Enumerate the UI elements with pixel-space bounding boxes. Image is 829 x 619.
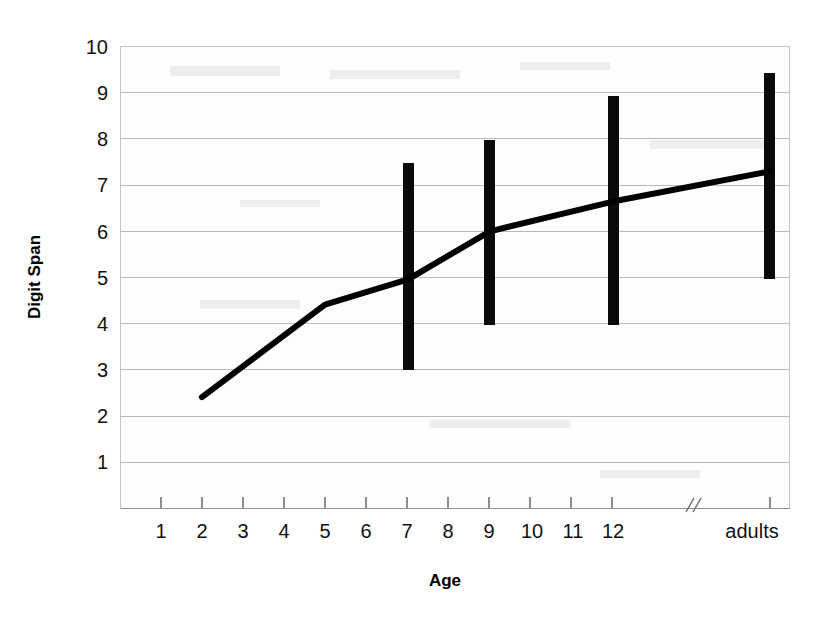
chart-canvas: 10 9 8 7 6 5 4 3 2 1 Digit Span [0, 0, 829, 619]
x-tick-label: 8 [442, 520, 453, 542]
digit-span-chart: 10 9 8 7 6 5 4 3 2 1 Digit Span [0, 0, 829, 619]
error-bar-age-7 [403, 163, 414, 370]
x-tick-label: 2 [196, 520, 207, 542]
y-axis-tick-labels: 10 9 8 7 6 5 4 3 2 1 [86, 36, 108, 473]
y-tick-label: 2 [97, 405, 108, 427]
y-tick-label: 8 [97, 128, 108, 150]
x-tick-label: 10 [521, 520, 543, 542]
y-axis-title: Digit Span [25, 235, 44, 319]
y-tick-label: 7 [97, 174, 108, 196]
x-tick-label: adults [725, 520, 778, 542]
x-tick-label: 6 [360, 520, 371, 542]
x-tick-label: 9 [483, 520, 494, 542]
x-tick-label: 4 [278, 520, 289, 542]
y-tick-label: 3 [97, 359, 108, 381]
x-axis-title: Age [429, 571, 461, 590]
x-tick-label: 11 [563, 520, 584, 542]
error-bar-adults [764, 73, 775, 279]
x-axis-tick-labels: 1 2 3 4 5 6 7 8 9 10 11 12 adults [155, 520, 778, 542]
x-tick-label: 5 [319, 520, 330, 542]
x-tick-label: 7 [401, 520, 412, 542]
error-bar-age-12 [608, 96, 619, 325]
x-tick-label: 12 [602, 520, 624, 542]
y-tick-label: 4 [97, 313, 108, 335]
x-tick-label: 3 [237, 520, 248, 542]
y-tick-label: 10 [86, 36, 108, 58]
y-tick-label: 1 [97, 451, 108, 473]
y-tick-label: 6 [97, 221, 108, 243]
y-tick-label: 9 [97, 82, 108, 104]
x-tick-label: 1 [155, 520, 166, 542]
y-tick-label: 5 [97, 267, 108, 289]
